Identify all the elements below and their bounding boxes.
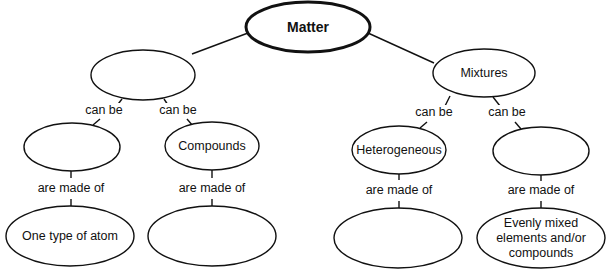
link-can-be: can be [487,105,527,119]
one-type-atom-label: One type of atom [22,229,118,244]
node-heterogeneous-made-of [334,208,462,268]
evenly-mixed-label: Evenly mixed elements and/or compounds [491,216,591,261]
node-pure-substances [91,50,195,100]
compounds-label: Compounds [178,139,245,154]
node-homogeneous [493,127,589,175]
link-can-be: can be [84,103,124,117]
node-compounds-made-of [148,206,276,266]
link-can-be: can be [158,103,198,117]
mixtures-label: Mixtures [460,66,507,81]
matter-label: Matter [287,20,329,35]
link-are-made-of: are made of [365,183,434,197]
link-can-be: can be [414,105,454,119]
link-are-made-of: are made of [37,181,106,195]
link-are-made-of: are made of [178,181,247,195]
link-are-made-of: are made of [507,183,576,197]
concept-map: Matter Mixtures Compounds Heterogeneous … [0,0,612,276]
heterogeneous-label: Heterogeneous [356,143,441,158]
node-elements [24,123,120,171]
